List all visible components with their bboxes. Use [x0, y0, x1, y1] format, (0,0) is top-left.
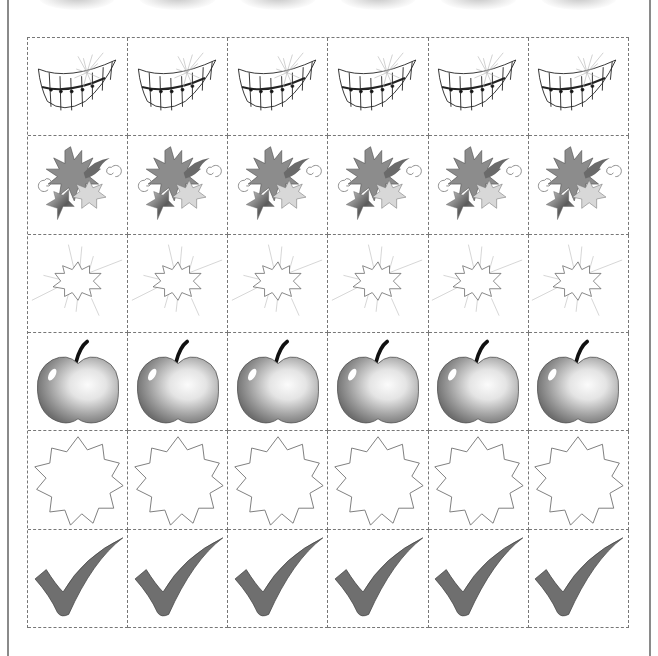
page-border-left	[7, 0, 9, 656]
sparkle-stars-icon	[131, 143, 225, 227]
grid-cell-apple	[128, 333, 228, 431]
grid-cell-star-badge	[328, 431, 428, 529]
grid-cell-sparkle-stars	[429, 136, 529, 234]
grid-cell-smile	[228, 38, 328, 136]
grid-cell-checkmark	[529, 530, 629, 628]
grid-cell-smile	[429, 38, 529, 136]
grid-cell-sparkle-stars	[328, 136, 428, 234]
apple-icon	[432, 336, 524, 428]
apple-icon	[32, 336, 124, 428]
shadow-blob	[428, 0, 528, 20]
grid-cell-star-badge	[429, 431, 529, 529]
star-badge-outline-icon	[431, 433, 525, 527]
apple-icon	[332, 336, 424, 428]
burst-outline-icon	[430, 244, 526, 322]
smiling-teeth-icon	[533, 51, 623, 123]
burst-outline-icon	[330, 244, 426, 322]
grid-cell-star-badge	[128, 431, 228, 529]
apple-icon	[132, 336, 224, 428]
burst-outline-icon	[230, 244, 326, 322]
grid-cell-smile	[28, 38, 128, 136]
apple-icon	[232, 336, 324, 428]
grid-cell-checkmark	[228, 530, 328, 628]
sparkle-stars-icon	[431, 143, 525, 227]
grid-cell-apple	[328, 333, 428, 431]
checkmark-icon	[231, 536, 325, 620]
checkmark-icon	[431, 536, 525, 620]
grid-cell-apple	[228, 333, 328, 431]
smiling-teeth-icon	[333, 51, 423, 123]
checkmark-icon	[531, 536, 625, 620]
grid-cell-burst	[529, 235, 629, 333]
grid-cell-burst	[429, 235, 529, 333]
grid-cell-apple	[28, 333, 128, 431]
top-shadow-row	[27, 0, 629, 20]
star-badge-outline-icon	[531, 433, 625, 527]
star-badge-outline-icon	[331, 433, 425, 527]
burst-outline-icon	[30, 244, 126, 322]
grid-cell-checkmark	[429, 530, 529, 628]
grid-cell-star-badge	[28, 431, 128, 529]
star-badge-outline-icon	[31, 433, 125, 527]
grid-cell-burst	[328, 235, 428, 333]
grid-cell-star-badge	[529, 431, 629, 529]
smiling-teeth-icon	[33, 51, 123, 123]
grid-cell-checkmark	[128, 530, 228, 628]
shadow-blob	[228, 0, 328, 20]
smiling-teeth-icon	[133, 51, 223, 123]
apple-icon	[532, 336, 624, 428]
shadow-blob	[127, 0, 227, 20]
grid-cell-smile	[328, 38, 428, 136]
grid-cell-sparkle-stars	[28, 136, 128, 234]
grid-cell-burst	[28, 235, 128, 333]
burst-outline-icon	[530, 244, 626, 322]
grid-cell-sparkle-stars	[228, 136, 328, 234]
grid-cell-apple	[429, 333, 529, 431]
grid-cell-burst	[128, 235, 228, 333]
grid-cell-checkmark	[28, 530, 128, 628]
burst-outline-icon	[130, 244, 226, 322]
grid-cell-apple	[529, 333, 629, 431]
sparkle-stars-icon	[231, 143, 325, 227]
grid-cell-checkmark	[328, 530, 428, 628]
checkmark-icon	[331, 536, 425, 620]
grid-cell-sparkle-stars	[128, 136, 228, 234]
shadow-blob	[529, 0, 629, 20]
checkmark-icon	[31, 536, 125, 620]
shadow-blob	[27, 0, 127, 20]
checkmark-icon	[131, 536, 225, 620]
grid-cell-star-badge	[228, 431, 328, 529]
sparkle-stars-icon	[331, 143, 425, 227]
smiling-teeth-icon	[233, 51, 323, 123]
grid-cell-smile	[529, 38, 629, 136]
page-border-right	[649, 0, 651, 656]
grid-cell-sparkle-stars	[529, 136, 629, 234]
star-badge-outline-icon	[231, 433, 325, 527]
star-badge-outline-icon	[131, 433, 225, 527]
sparkle-stars-icon	[531, 143, 625, 227]
smiling-teeth-icon	[433, 51, 523, 123]
shadow-blob	[328, 0, 428, 20]
grid-cell-burst	[228, 235, 328, 333]
sparkle-stars-icon	[31, 143, 125, 227]
grid-cell-smile	[128, 38, 228, 136]
cutout-grid	[27, 37, 629, 628]
